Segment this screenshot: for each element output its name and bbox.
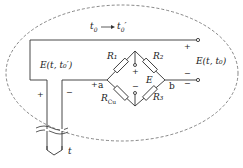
terminal-negative-icon: [196, 78, 199, 81]
bridge-plus-sign: +: [132, 68, 139, 76]
rcu-label: RCu: [101, 94, 116, 105]
tc-plus-sign: +: [37, 91, 44, 99]
tc-minus-sign: −: [66, 89, 73, 97]
output-minus-sign-upper: −: [184, 70, 191, 78]
output-minus-sign-lower: −: [184, 80, 191, 88]
bridge-emf-label: E: [146, 76, 153, 85]
right-emf-label: E(t, t₀): [196, 57, 226, 66]
probe-temp-label: t: [68, 147, 72, 156]
bridge-minus-sign: −: [132, 83, 139, 91]
r2-label: R₂: [153, 52, 163, 61]
r3-label: R₃: [153, 93, 163, 102]
temp-t0-prime-label: t0′: [117, 22, 127, 33]
arrow-icon: [111, 25, 115, 29]
output-plus-sign: +: [184, 43, 191, 51]
r1-label: R₁: [107, 52, 117, 61]
terminal-positive-icon: [196, 38, 199, 41]
left-emf-label: E(t, t₀′): [40, 61, 72, 70]
node-b-label: b: [169, 82, 175, 91]
node-a-plus-sign: +: [91, 81, 98, 89]
node-a-label: a: [98, 81, 103, 90]
temp-t0-label: t0: [90, 22, 97, 33]
probe-tip: [47, 146, 62, 155]
supply-terminal-icon: [134, 92, 137, 95]
